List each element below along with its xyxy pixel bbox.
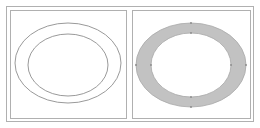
left-panel <box>11 11 127 119</box>
filled-ring <box>136 23 246 107</box>
diagram-canvas <box>0 0 260 128</box>
right-panel <box>133 11 251 119</box>
outer-frame <box>7 7 254 122</box>
outer-ellipse <box>15 23 121 103</box>
control-points <box>135 22 247 108</box>
inner-ellipse <box>28 34 108 96</box>
